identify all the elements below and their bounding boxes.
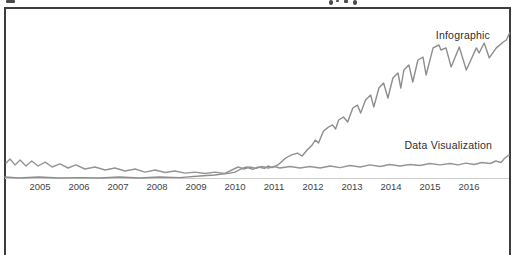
x-tick-label-2007: 2007 [102, 181, 134, 192]
infographic-series-label: Infographic [436, 29, 490, 41]
infographic-line [5, 33, 510, 178]
x-tick-label-2016: 2016 [453, 181, 485, 192]
x-tick-label-2014: 2014 [375, 181, 407, 192]
data-visualization-series-label: Data Visualization [405, 139, 492, 151]
x-tick-label-2015: 2015 [414, 181, 446, 192]
x-tick-label-2012: 2012 [297, 181, 329, 192]
x-tick-label-2005: 2005 [24, 181, 56, 192]
x-tick-label-2008: 2008 [141, 181, 173, 192]
x-tick-label-2009: 2009 [180, 181, 212, 192]
x-tick-label-2010: 2010 [219, 181, 251, 192]
x-tick-label-2006: 2006 [63, 181, 95, 192]
x-tick-label-2013: 2013 [336, 181, 368, 192]
data-visualization-line [6, 155, 509, 174]
x-tick-label-2011: 2011 [258, 181, 290, 192]
